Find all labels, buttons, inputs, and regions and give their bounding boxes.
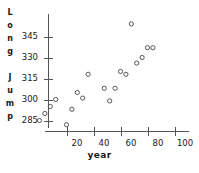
data-point [145,46,149,50]
plot-canvas [0,0,199,173]
data-point [75,90,79,94]
data-point [140,55,144,59]
data-point-layer [37,22,155,127]
data-point [37,118,41,122]
data-point [135,61,139,65]
data-point [118,69,122,73]
data-point [113,86,117,90]
data-point [86,72,90,76]
data-point [124,72,128,76]
data-point [102,86,106,90]
axis-lines [45,14,189,132]
data-point [129,22,133,26]
data-point [81,96,85,100]
scatter-plot-figure: Long Jump 345 330 315 300 285 20 40 60 8… [0,0,199,173]
data-point [151,46,155,50]
data-point [70,107,74,111]
data-point [43,111,47,115]
data-point [64,123,68,127]
data-point [108,99,112,103]
x-axis-title: year [0,150,199,160]
data-point [54,97,58,101]
